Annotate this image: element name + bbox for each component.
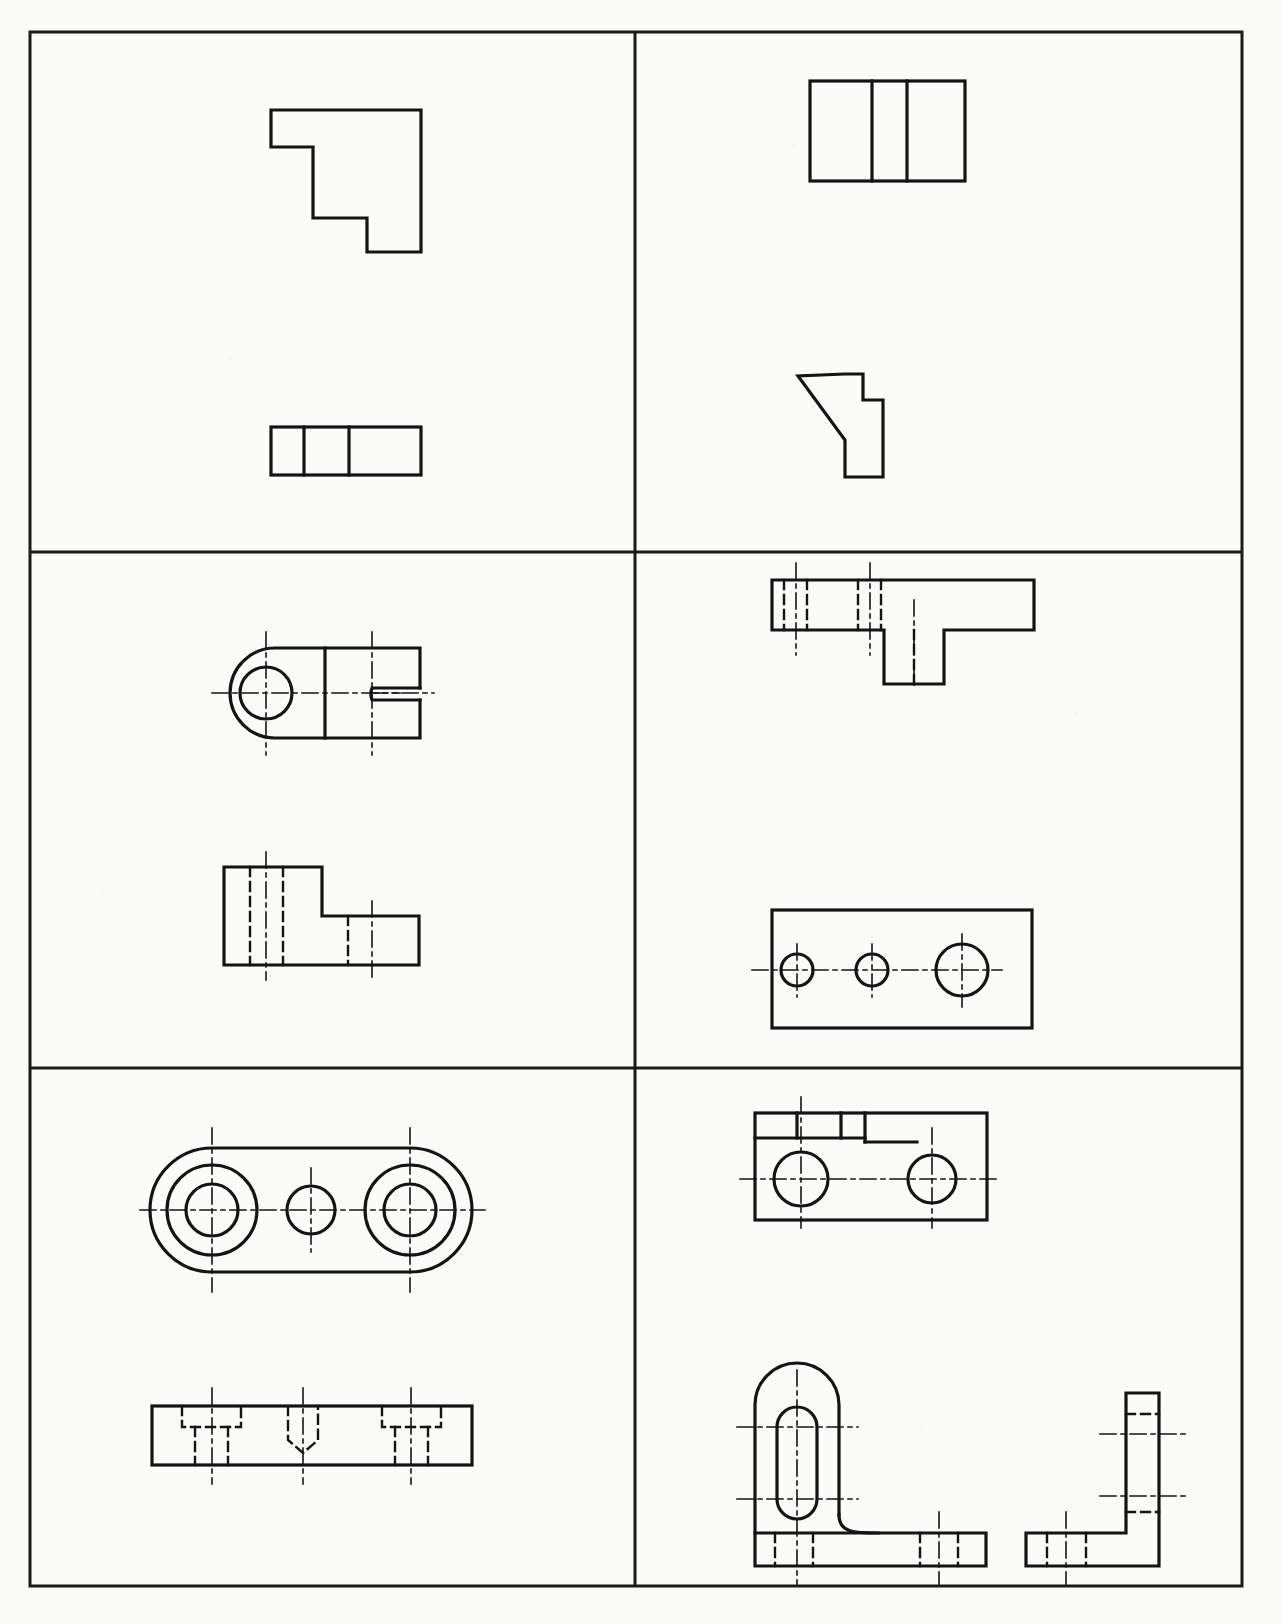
cell-4-middle-right [752,563,1034,1028]
cell-4-front-view [772,563,1034,690]
cell-3-front-view [224,852,419,980]
cell-6-front-view [737,1363,986,1585]
cell-6-bottom-right [737,1097,1190,1585]
cell-1-front-view [271,110,421,252]
grid-dividers [30,32,1242,1586]
cell-4-top-view [752,910,1032,1028]
cell-3-middle-left [212,632,434,980]
cell-3-top-view [212,632,434,755]
cell-2-front-view [798,374,883,477]
cell-1-top-left [271,110,421,475]
cell-2-top-view [810,81,965,181]
cell-5-front-view [152,1388,472,1484]
cell-6-side-view [1026,1393,1190,1585]
cell-5-bottom-left [140,1128,485,1484]
cell-1-top-view [271,427,421,475]
cell-6-top-view [740,1097,1000,1228]
cell-2-top-right [798,81,965,477]
drawing-sheet [0,0,1281,1624]
cell-5-top-view [140,1128,485,1292]
